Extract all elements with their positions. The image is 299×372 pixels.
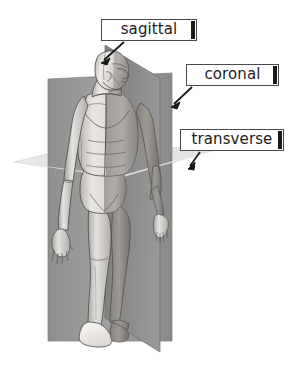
label-sagittal-text: sagittal: [115, 22, 184, 38]
figure-head: [95, 50, 129, 90]
label-coronal-text: coronal: [198, 67, 266, 83]
diagram-canvas: [0, 0, 299, 372]
label-sagittal[interactable]: sagittal: [101, 19, 197, 41]
label-transverse-text: transverse: [186, 132, 279, 148]
anatomy-planes-diagram: sagittal coronal transverse: [0, 0, 299, 372]
label-coronal[interactable]: coronal: [186, 64, 279, 86]
label-sagittal-bar: [191, 21, 195, 39]
label-transverse[interactable]: transverse: [180, 129, 284, 151]
arrow-coronal: [171, 87, 192, 109]
label-coronal-bar: [273, 66, 277, 84]
label-transverse-bar: [278, 131, 282, 149]
